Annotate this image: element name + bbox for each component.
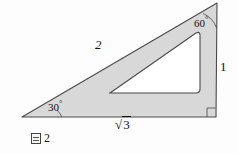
- angle-60-value: 60: [194, 17, 205, 29]
- figure-kanji-glyph-icon: [31, 133, 41, 144]
- angle-30-value: 30: [48, 101, 59, 113]
- angle-label-30: 30°: [48, 100, 62, 113]
- figure-container: 2 1 √3 30° 60° 2: [0, 0, 238, 153]
- side-label-vertical: 1: [220, 60, 227, 73]
- sqrt-symbol-icon: √3: [115, 118, 131, 131]
- degree-symbol-30: °: [59, 99, 62, 108]
- degree-symbol-60: °: [205, 15, 208, 24]
- figure-caption: 2: [31, 131, 50, 146]
- angle-label-60: 60°: [194, 16, 208, 29]
- base-radicand: 3: [122, 116, 131, 132]
- figure-caption-number: 2: [44, 131, 50, 146]
- side-label-hypotenuse: 2: [95, 38, 102, 51]
- side-label-base: √3: [115, 118, 131, 131]
